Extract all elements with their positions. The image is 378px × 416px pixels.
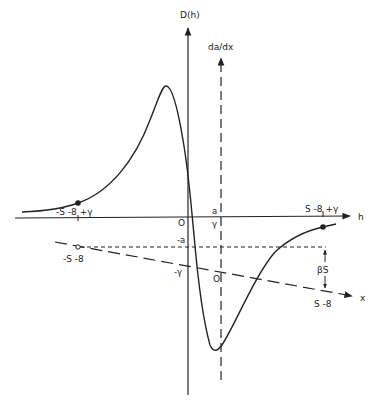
h-axis-label: h — [358, 212, 364, 222]
origin-dashed-label: O — [213, 274, 220, 284]
x-axis-dashed — [55, 242, 352, 296]
dadx-axis-label: da/dx — [208, 42, 234, 52]
dh-axis-label: D(h) — [180, 10, 200, 20]
x-axis-label: x — [360, 293, 366, 303]
left-lower-point-label: -S -8 — [63, 254, 84, 264]
left-upper-point-label: -S -8 +γ — [56, 207, 93, 217]
origin-main-label: O — [178, 218, 185, 228]
minus-gamma-label: -γ — [174, 267, 182, 277]
beta-s-label: βS — [317, 265, 329, 275]
right-upper-point — [320, 224, 326, 230]
a-label: a — [212, 206, 217, 216]
left-upper-point — [75, 200, 81, 206]
minus-a-label: -a — [177, 235, 185, 245]
gamma-label: γ — [212, 219, 217, 229]
left-lower-point — [76, 245, 80, 249]
diagram: D(h) da/dx h x βS -S -8 +γ -S -8 O a γ -… — [0, 0, 378, 416]
right-lower-point-label: S -8 — [314, 299, 332, 309]
right-upper-point-label: S -8 +γ — [305, 204, 339, 214]
